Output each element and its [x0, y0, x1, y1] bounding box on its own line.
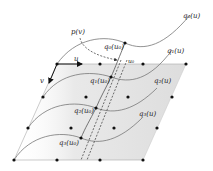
- label-q1u0: q₁(u₀): [90, 77, 110, 85]
- surface-diagram: q₀(u) q₁(u) q₂(u) q₃(u) q₀(u₀) q₁(u₀) q₂…: [0, 0, 213, 171]
- label-q1: q₁(u): [167, 47, 185, 55]
- label-q2u0: q₂(u₀): [74, 107, 94, 115]
- label-q3u0: q₃(u₀): [59, 139, 79, 147]
- label-v: v: [40, 77, 44, 85]
- label-q3: q₃(u): [139, 110, 157, 118]
- label-q0u0: q₀(u₀): [104, 43, 124, 51]
- label-q2: q₂(u): [154, 77, 172, 85]
- label-u: u: [74, 55, 79, 63]
- label-q0: q₀(u): [183, 12, 201, 20]
- label-p: p(v): [71, 28, 85, 36]
- label-u0: u₀: [128, 57, 135, 64]
